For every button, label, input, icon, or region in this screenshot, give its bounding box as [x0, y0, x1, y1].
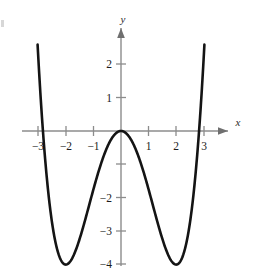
y-tick-label--3: −3	[100, 225, 112, 237]
y-tick-label-1: 1	[106, 92, 112, 104]
y-tick-label--4: −4	[100, 258, 112, 270]
y-tick-label--2: −2	[100, 192, 112, 204]
x-axis-arrowhead	[218, 127, 228, 135]
coordinate-plane: −3 −2 −1 1 2 3 2 1 −2 −3 −4 x y	[0, 0, 256, 277]
x-tick-label-1: 1	[146, 140, 152, 152]
y-axis-arrowhead	[117, 28, 125, 38]
y-axis-label: y	[120, 13, 126, 25]
x-tick-label-2: 2	[173, 140, 179, 152]
x-tick-label--2: −2	[60, 140, 72, 152]
x-tick-label--1: −1	[87, 140, 99, 152]
y-tick-label-2: 2	[106, 58, 112, 70]
x-axis-label: x	[235, 116, 241, 128]
x-tick-label-3: 3	[201, 140, 207, 152]
graph-figure: −3 −2 −1 1 2 3 2 1 −2 −3 −4 x y	[0, 0, 256, 277]
